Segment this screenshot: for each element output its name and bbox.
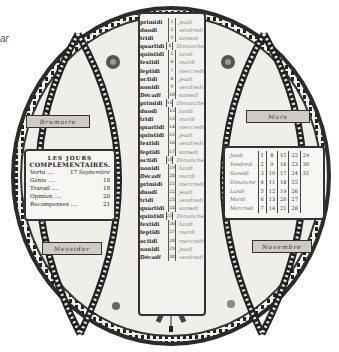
decade-day-num: 13 [168, 115, 176, 123]
decade-day-row: octidi28mercredi [140, 237, 204, 245]
decade-day-row: feptidi27mardi [140, 228, 204, 236]
decade-day-gr: samedi [176, 148, 198, 156]
banner-mars: Mars [246, 110, 310, 123]
decade-day-list: primidi1jeudiduodi2vendreditridi3samediq… [140, 18, 204, 261]
decade-day-gr: samedi [176, 34, 198, 42]
decade-day-rn: duodi [140, 188, 168, 196]
decade-day-num: 23 [168, 196, 176, 204]
decade-day-num: 12 [168, 107, 176, 115]
decade-day-gr: mardi [176, 58, 195, 66]
decade-day-row: primidi21mercredi [140, 180, 204, 188]
decade-day-row: primidi1jeudi [140, 18, 204, 26]
complementary-row: Recompenses ....21 [26, 200, 114, 208]
decade-day-gr: Dimanche [173, 156, 204, 164]
decade-day-rn: quartidi [140, 42, 166, 50]
decade-day-num: 15 [168, 131, 176, 139]
decade-day-num: 28 [168, 237, 176, 245]
decade-day-gr: Dimanche [173, 42, 204, 50]
decade-day-num: 5 [168, 50, 176, 58]
decade-day-rn: quintidi [140, 212, 166, 220]
decade-day-row: nonidi29jeudi [140, 245, 204, 253]
decade-day-rn: Décadi [140, 253, 168, 261]
banner-brumaire: Brumaire [26, 115, 90, 128]
decade-day-num: 7 [168, 67, 176, 75]
decade-day-gr: jeudi [176, 18, 193, 26]
decade-day-num: 24 [168, 204, 176, 212]
decade-day-row: fextidi6mardi [140, 58, 204, 66]
decade-day-rn: quintidi [140, 50, 168, 58]
decade-day-rn: feptidi [140, 148, 168, 156]
decade-day-rn: fextidi [140, 58, 168, 66]
decade-day-rn: feptidi [140, 67, 168, 75]
decade-day-num: 21 [168, 180, 176, 188]
decade-day-rn: nonidi [140, 245, 168, 253]
decade-day-rn: nonidi [140, 83, 168, 91]
decade-day-gr: samedi [176, 91, 198, 99]
decade-day-rn: tridi [140, 196, 168, 204]
decade-day-row: duodi22jeudi [140, 188, 204, 196]
decade-day-num: 22 [168, 188, 176, 196]
decade-day-row: fextidi26lundi [140, 220, 204, 228]
decade-day-gr: lundi [176, 164, 193, 172]
decade-day-num: 29 [168, 245, 176, 253]
decade-day-row: quintidi25Dimanche [140, 212, 204, 220]
decade-day-num: 20 [168, 172, 176, 180]
decade-day-gr: mardi [176, 115, 195, 123]
decade-day-num: 18 [166, 156, 174, 164]
decade-day-gr: Dimanche [173, 212, 204, 220]
decade-day-rn: nonidi [140, 164, 168, 172]
decade-day-num: 2 [168, 26, 176, 34]
decade-day-num: 10 [168, 91, 176, 99]
decade-day-row: Décadi10samedi [140, 91, 204, 99]
complementary-heading-2: COMPLEMENTAIRES. [26, 161, 114, 168]
complementary-row: Opinion ....20 [26, 192, 114, 200]
decade-day-num: 25 [166, 212, 174, 220]
banner-messidor: Messidor [42, 242, 102, 255]
decade-day-row: feptidi17samedi [140, 148, 204, 156]
decade-day-num: 6 [168, 58, 176, 66]
complementary-row: Travail ....19 [26, 184, 114, 192]
month-row: Vendredi29162330 [228, 160, 311, 169]
decade-day-rn: tridi [140, 34, 168, 42]
decade-day-num: 4 [166, 42, 174, 50]
month-row: Samedi310172431 [228, 169, 311, 178]
decade-day-row: quartidi4Dimanche [140, 42, 204, 50]
decade-day-row: tridi13mardi [140, 115, 204, 123]
month-row: Mardi6132027 [228, 195, 311, 204]
decade-day-row: duodi12lundi [140, 107, 204, 115]
decade-day-rn: Décadi [140, 172, 168, 180]
month-table-box: Jeudi18152229Vendredi29162330Samedi31017… [223, 146, 325, 220]
complementary-row: Génie ....18 [26, 176, 114, 184]
decade-day-rn: quartidi [140, 204, 168, 212]
banner-novembre: Novembre [252, 240, 312, 253]
decade-day-rn: quartidi [140, 123, 168, 131]
decade-day-num: 17 [168, 148, 176, 156]
month-row: Dimanche4111825 [228, 177, 311, 186]
decade-day-gr: lundi [176, 220, 193, 228]
decade-day-num: 14 [168, 123, 176, 131]
month-table: Jeudi18152229Vendredi29162330Samedi31017… [228, 151, 311, 213]
decade-day-row: Décadi20mardi [140, 172, 204, 180]
decade-day-rn: octidi [140, 75, 168, 83]
decade-day-rn: octidi [140, 237, 168, 245]
decade-day-num: 11 [166, 99, 174, 107]
decade-day-rn: quintidi [140, 131, 168, 139]
decade-day-row: quartidi14mercredi [140, 123, 204, 131]
decade-day-row: octidi18Dimanche [140, 156, 204, 164]
decade-day-num: 26 [168, 220, 176, 228]
decade-day-row: nonidi9vendredi [140, 83, 204, 91]
decade-day-gr: vendredi [176, 196, 203, 204]
decade-day-num: 8 [168, 75, 176, 83]
decade-day-row: nonidi19lundi [140, 164, 204, 172]
decade-day-row: duodi2vendredi [140, 26, 204, 34]
decade-day-num: 30 [168, 253, 176, 261]
decade-day-row: octidi8jeudi [140, 75, 204, 83]
decade-day-gr: Dimanche [173, 99, 204, 107]
month-row: Mercredi7142128 [228, 204, 311, 213]
decade-day-rn: tridi [140, 115, 168, 123]
decade-day-gr: mercredi [176, 180, 204, 188]
decade-day-row: feptidi7mercredi [140, 67, 204, 75]
decade-day-num: 1 [168, 18, 176, 26]
decade-day-rn: primidi [140, 18, 168, 26]
complementary-days-box: LES JOURS COMPLEMENTAIRES. Vertu ....17 … [24, 149, 116, 221]
